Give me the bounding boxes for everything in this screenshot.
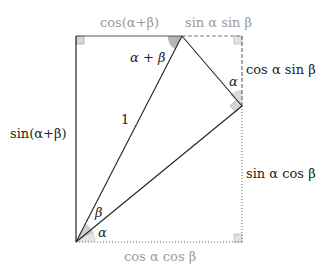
label-cos-alpha-cos-beta: cos α cos β [124,249,196,264]
angle-arc-apex [168,36,182,49]
label-angle-beta: β [94,205,103,220]
label-hypotenuse-one: 1 [121,112,129,127]
label-angle-apex: α + β [130,50,165,65]
right-angle-marker-top-left [76,36,84,44]
label-sin-alpha-plus-beta: sin(α+β) [10,126,67,141]
right-angle-marker-top-right [234,36,242,44]
label-angle-alpha: α [98,225,107,240]
upper-leg [182,36,242,106]
hypotenuse [76,36,182,242]
trig-diagram: cos(α+β) sin α sin β cos α sin β sin α c… [0,0,322,272]
label-cos-alpha-plus-beta: cos(α+β) [100,15,159,30]
label-sin-alpha-sin-beta: sin α sin β [185,15,252,30]
right-angle-marker-bottom-right [234,234,242,242]
lower-leg [76,106,242,242]
label-angle-right: α [229,74,238,89]
label-cos-alpha-sin-beta: cos α sin β [246,62,316,77]
label-sin-alpha-cos-beta: sin α cos β [246,166,316,181]
